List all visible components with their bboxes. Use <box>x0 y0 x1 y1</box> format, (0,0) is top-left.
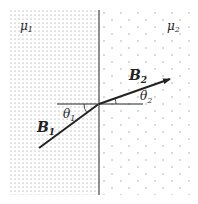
refraction-diagram: μ1 μ2 B1 B2 θ1 θ2 <box>0 0 198 204</box>
medium-1-region <box>10 10 99 195</box>
